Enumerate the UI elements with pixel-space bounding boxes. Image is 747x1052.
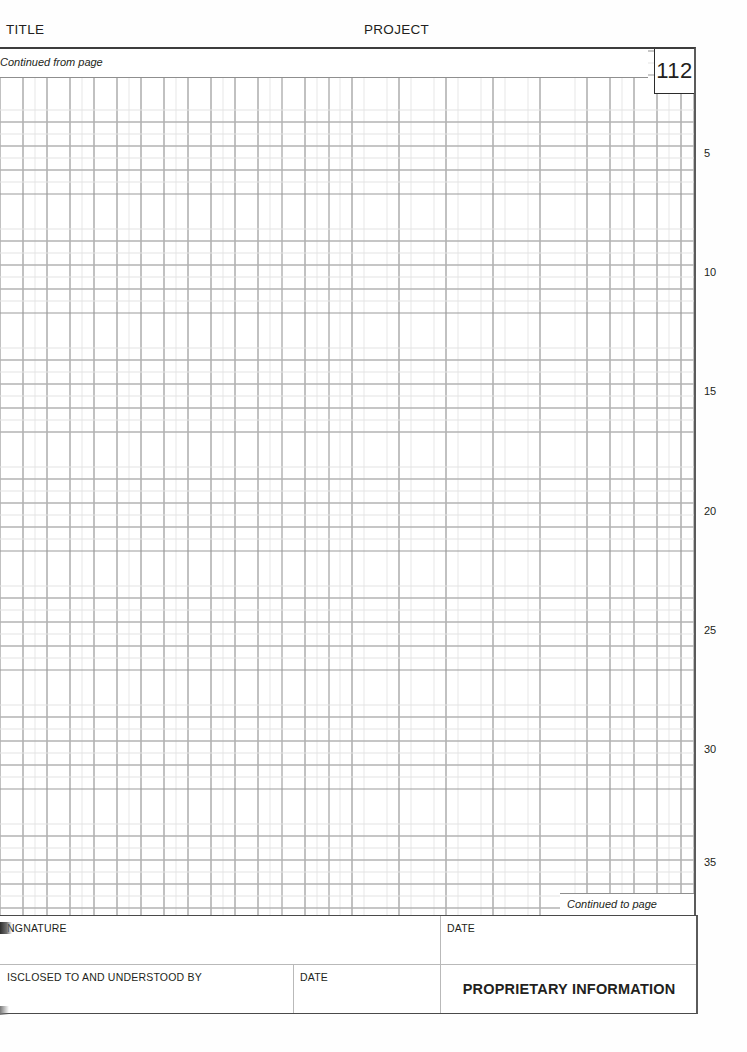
- disclosed-to-field[interactable]: ISCLOSED TO AND UNDERSTOOD BY: [0, 965, 293, 1013]
- page-number-value: 112: [656, 60, 693, 82]
- graph-grid-area[interactable]: Continued from page 112 Continued to pag…: [0, 47, 696, 915]
- row-number: 25: [704, 625, 716, 636]
- row-number: 35: [704, 857, 716, 868]
- row-number: 30: [704, 744, 716, 755]
- row-number: 5: [704, 148, 710, 159]
- title-label: TITLE: [6, 22, 44, 37]
- scan-artifact-mark: [0, 922, 12, 934]
- signature-label: NGNATURE: [7, 922, 67, 934]
- proprietary-notice-text: PROPRIETARY INFORMATION: [463, 981, 676, 997]
- signature-date-field[interactable]: DATE: [440, 916, 698, 964]
- continued-from-page-label: Continued from page: [0, 56, 103, 68]
- continued-to-page-field[interactable]: Continued to page: [560, 893, 694, 915]
- row-number: 20: [704, 506, 716, 517]
- notebook-page: TITLE PROJECT Continued from page 112 Co…: [0, 0, 747, 1052]
- disclosed-date-label: DATE: [300, 971, 328, 983]
- page-number-box: 112: [654, 49, 694, 94]
- signature-footer: NGNATURE DATE ISCLOSED TO AND UNDERSTOOD…: [0, 915, 698, 1014]
- page-header: TITLE PROJECT: [0, 22, 700, 44]
- row-number-gutter: 5 10 15 20 25 30 35: [698, 47, 747, 915]
- disclosed-to-label: ISCLOSED TO AND UNDERSTOOD BY: [7, 971, 202, 983]
- proprietary-notice: PROPRIETARY INFORMATION: [440, 965, 698, 1013]
- continued-to-page-label: Continued to page: [567, 898, 657, 910]
- signature-date-label: DATE: [447, 922, 475, 934]
- row-number: 15: [704, 386, 716, 397]
- disclosed-date-field[interactable]: DATE: [293, 965, 440, 1013]
- signature-row: NGNATURE DATE: [0, 916, 696, 965]
- graph-paper-background: [0, 49, 694, 915]
- scan-artifact-mark: [0, 1006, 9, 1015]
- row-number: 10: [704, 267, 716, 278]
- project-label: PROJECT: [364, 22, 429, 37]
- signature-field[interactable]: NGNATURE: [0, 916, 440, 964]
- continued-from-page-field[interactable]: Continued from page: [0, 49, 648, 78]
